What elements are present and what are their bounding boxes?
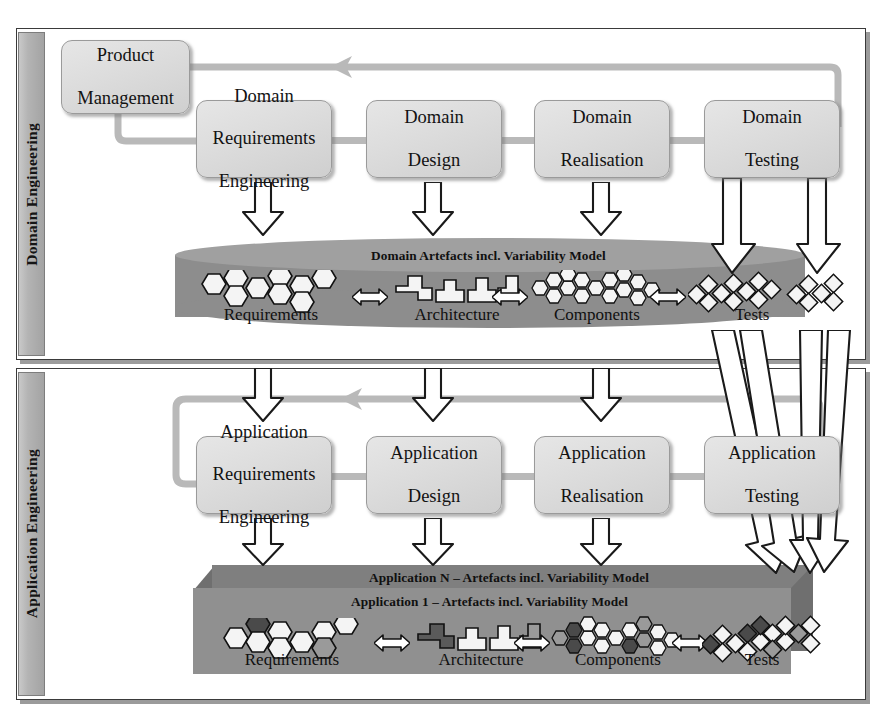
arrow-down-domain-realisation	[578, 182, 624, 238]
process-box-application-testing[interactable]: Application Testing	[704, 436, 840, 514]
domain-engineering-sidebar: Domain Engineering	[18, 32, 45, 356]
arrow-down-requirements-reuse	[240, 368, 286, 424]
domain-artefact-label-requirements: Requirements	[196, 305, 346, 325]
arrow-down-application-realisation	[578, 518, 624, 568]
arrow-down-domain-testing-a	[710, 178, 762, 276]
process-box-domain-testing[interactable]: Domain Testing	[704, 100, 840, 178]
process-box-domain-requirements-engineering-label: Domain Requirements Engineering	[205, 86, 324, 191]
process-box-application-design[interactable]: Application Design	[366, 436, 502, 514]
bidirectional-arrow-domain-3	[650, 288, 686, 306]
bidirectional-arrow-domain-1	[352, 288, 388, 306]
process-box-product-management[interactable]: Product Management	[61, 40, 190, 114]
domain-artefact-label-components: Components	[526, 305, 668, 325]
process-box-domain-testing-label: Domain Testing	[734, 107, 810, 170]
arrow-down-domain-testing-b	[795, 178, 847, 276]
application-artefact-label-requirements: Requirements	[216, 650, 368, 670]
application-artefacts-title-1: Application 1 – Artefacts incl. Variabil…	[351, 594, 628, 610]
bidirectional-arrow-application-1	[374, 634, 410, 652]
arrow-down-components-reuse	[578, 368, 624, 424]
process-box-domain-realisation[interactable]: Domain Realisation	[534, 100, 670, 178]
process-box-domain-realisation-label: Domain Realisation	[552, 107, 651, 170]
process-box-domain-design[interactable]: Domain Design	[366, 100, 502, 178]
process-box-product-management-label: Product Management	[69, 45, 182, 108]
process-box-application-testing-label: Application Testing	[720, 443, 823, 506]
domain-artefact-label-tests: Tests	[702, 305, 802, 325]
process-box-application-realisation[interactable]: Application Realisation	[534, 436, 670, 514]
bidirectional-arrow-application-2	[514, 634, 550, 652]
application-artefact-label-architecture: Architecture	[408, 650, 554, 670]
process-box-domain-requirements-engineering[interactable]: Domain Requirements Engineering	[196, 100, 332, 178]
arrow-down-application-design	[410, 518, 456, 568]
process-box-application-design-label: Application Design	[382, 443, 485, 506]
application-engineering-sidebar: Application Engineering	[18, 372, 45, 696]
application-engineering-label: Application Engineering	[23, 449, 41, 618]
domain-artefact-label-architecture: Architecture	[385, 305, 529, 325]
arrow-down-architecture-reuse	[410, 368, 456, 424]
arrow-down-domain-design	[410, 182, 456, 238]
application-artefact-label-components: Components	[546, 650, 690, 670]
process-box-domain-design-label: Domain Design	[396, 107, 472, 170]
process-box-application-realisation-label: Application Realisation	[550, 443, 653, 506]
process-box-application-requirements-engineering-label: Application Requirements Engineering	[205, 422, 324, 527]
domain-artefacts-title: Domain Artefacts incl. Variability Model	[371, 248, 606, 264]
diagram-canvas: Domain Engineering Product Management Do…	[0, 0, 896, 721]
application-artefact-label-tests: Tests	[712, 650, 812, 670]
bidirectional-arrow-domain-2	[492, 288, 528, 306]
domain-engineering-label: Domain Engineering	[23, 123, 41, 266]
application-artefacts-title-n: Application N – Artefacts incl. Variabil…	[369, 570, 649, 586]
process-box-application-requirements-engineering[interactable]: Application Requirements Engineering	[196, 436, 332, 514]
